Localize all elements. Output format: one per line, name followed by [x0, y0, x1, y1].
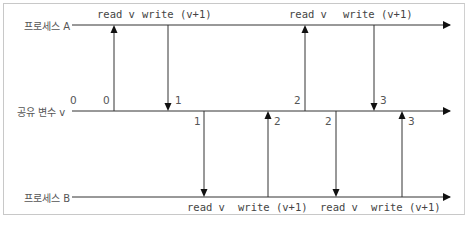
- op-b2-read: read v: [320, 201, 358, 213]
- op-a2-read: read v: [289, 8, 327, 20]
- lane-label-process-b: 프로세스 B: [24, 190, 70, 205]
- op-a2-write: write (v+1): [343, 8, 413, 20]
- arrow-a2-write: [371, 25, 378, 111]
- op-b2-write: write (v+1): [371, 201, 441, 213]
- arrow-a1-read: [111, 25, 118, 111]
- value-a2-read: 2: [294, 94, 301, 106]
- op-b1-read: read v: [187, 201, 225, 213]
- op-a1-read: read v: [97, 8, 135, 20]
- lane-label-process-a: 프로세스 A: [24, 18, 70, 33]
- value-a2-write: 3: [380, 94, 387, 106]
- op-b1-write: write (v+1): [238, 201, 308, 213]
- op-a1-write: write (v+1): [142, 8, 212, 20]
- value-b1-write: 2: [274, 115, 281, 127]
- arrow-b1-write: [265, 111, 272, 197]
- arrow-a1-write: [165, 25, 172, 111]
- value-b1-read: 1: [194, 115, 201, 127]
- lane-label-shared-var: 공유 변수 v: [17, 104, 65, 119]
- value-a1-read: 0: [103, 94, 110, 106]
- value-b2-read: 2: [325, 115, 332, 127]
- arrow-a2-read: [302, 25, 309, 111]
- value-initial: 0: [70, 94, 77, 106]
- arrow-b1-read: [201, 111, 208, 197]
- value-a1-write: 1: [175, 94, 182, 106]
- value-b2-write: 3: [408, 115, 415, 127]
- arrow-b2-write: [399, 111, 406, 197]
- arrow-b2-read: [333, 111, 340, 197]
- timeline-diagram: [0, 0, 469, 226]
